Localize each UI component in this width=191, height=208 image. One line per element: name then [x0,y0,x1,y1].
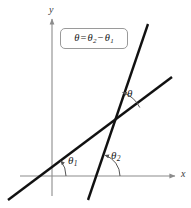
formula-text: θ=θ2−θ1 [74,33,114,44]
theta-symbol: θ [127,87,132,99]
theta-label: θ [127,88,132,99]
y-axis-label: y [49,5,53,15]
formula-equals: = [79,32,87,43]
theta-2-symbol: θ [111,149,116,161]
x-axis-label: x [181,169,185,179]
formula-sub2: 2 [93,37,97,45]
line-2-steep [88,24,148,200]
theta-2-label: θ2 [111,150,120,161]
theta-1-subscript: 1 [74,159,78,168]
theta-1-symbol: θ [68,154,73,166]
formula-box: θ=θ2−θ1 [60,28,128,49]
theta-2-subscript: 2 [117,154,121,163]
geometry-figure: y x θ1 θ2 θ θ=θ2−θ1 [0,0,191,208]
formula-sub1: 1 [110,37,114,45]
theta-1-label: θ1 [68,155,77,166]
line-1-shallow [8,77,172,200]
formula-minus: − [97,32,105,43]
theta-1-arc [61,161,66,176]
